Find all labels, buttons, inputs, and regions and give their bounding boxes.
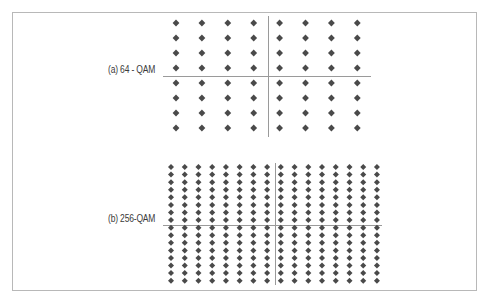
figure-frame [12,12,477,291]
